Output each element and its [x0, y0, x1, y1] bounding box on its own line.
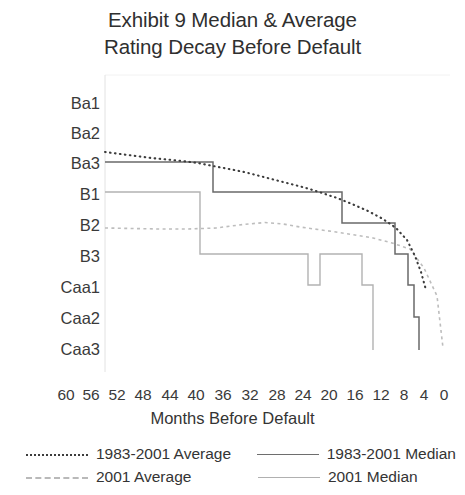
- x-tick-16: 16: [346, 386, 363, 404]
- x-tick-44: 44: [161, 386, 178, 404]
- x-tick-40: 40: [187, 386, 204, 404]
- legend-label-1983-2001-median: 1983-2001 Median: [327, 445, 456, 463]
- y-tick-b1: B1: [0, 186, 100, 203]
- legend-swatch-dashed-icon: [26, 471, 88, 483]
- x-tick-36: 36: [214, 386, 231, 404]
- x-tick-12: 12: [372, 386, 389, 404]
- x-tick-8: 8: [400, 386, 409, 404]
- legend-item-1983-2001-median: 1983-2001 Median: [257, 445, 456, 463]
- plot-area: Ba1 Ba2 Ba3 B1 B2 B3 Caa1 Caa2 Caa3: [0, 0, 465, 380]
- y-tick-caa3: Caa3: [0, 341, 100, 358]
- legend-swatch-dotted-icon: [26, 448, 88, 460]
- y-tick-ba2: Ba2: [0, 125, 100, 142]
- y-tick-ba1: Ba1: [0, 95, 100, 112]
- y-tick-b2: B2: [0, 217, 100, 234]
- legend-row-2: 2001 Average 2001 Median: [26, 465, 456, 488]
- y-axis-labels: Ba1 Ba2 Ba3 B1 B2 B3 Caa1 Caa2 Caa3: [0, 0, 100, 380]
- x-tick-48: 48: [134, 386, 151, 404]
- y-tick-ba3: Ba3: [0, 155, 100, 172]
- x-tick-32: 32: [241, 386, 258, 404]
- series-2001-average: [105, 223, 443, 349]
- x-tick-4: 4: [420, 386, 429, 404]
- y-tick-caa2: Caa2: [0, 310, 100, 327]
- y-tick-caa1: Caa1: [0, 279, 100, 296]
- x-tick-60: 60: [57, 386, 74, 404]
- x-axis-title: Months Before Default: [0, 408, 465, 428]
- series-2001-median: [105, 192, 373, 350]
- legend-item-2001-median: 2001 Median: [258, 468, 418, 486]
- legend-label-1983-2001-average: 1983-2001 Average: [96, 445, 231, 463]
- y-tick-b3: B3: [0, 248, 100, 265]
- x-tick-28: 28: [268, 386, 285, 404]
- chart-figure: Exhibit 9 Median & Average Rating Decay …: [0, 0, 465, 495]
- legend-item-1983-2001-average: 1983-2001 Average: [26, 445, 257, 463]
- legend-item-2001-average: 2001 Average: [26, 468, 258, 486]
- legend-row-1: 1983-2001 Average 1983-2001 Median: [26, 442, 456, 465]
- x-tick-24: 24: [294, 386, 311, 404]
- chart-legend: 1983-2001 Average 1983-2001 Median 2001 …: [0, 442, 465, 492]
- x-tick-0: 0: [440, 386, 449, 404]
- legend-label-2001-median: 2001 Median: [328, 468, 418, 486]
- legend-swatch-solid-light-icon: [258, 471, 320, 483]
- x-tick-52: 52: [108, 386, 125, 404]
- legend-label-2001-average: 2001 Average: [96, 468, 191, 486]
- x-tick-56: 56: [82, 386, 99, 404]
- x-tick-20: 20: [320, 386, 337, 404]
- series-1983-2001-median: [105, 162, 419, 350]
- legend-swatch-solid-dark-icon: [257, 448, 319, 460]
- series-1983-2001-average: [105, 152, 426, 290]
- x-axis-labels: 60 56 52 48 44 40 36 32 28 24 20 16 12 8…: [0, 386, 465, 408]
